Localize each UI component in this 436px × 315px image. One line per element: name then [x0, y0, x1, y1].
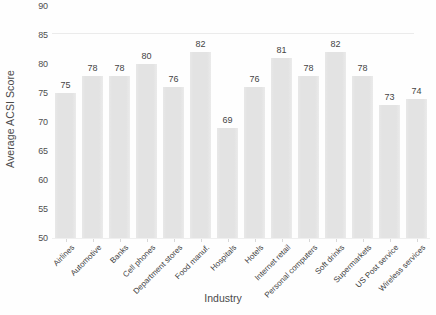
bar-shading [325, 52, 347, 238]
bar [82, 76, 104, 238]
y-axis-tick-label: 80 [22, 59, 48, 69]
x-axis-tick-mark [282, 239, 283, 242]
x-axis-category-label: Airlines [51, 243, 76, 268]
x-axis-tick-mark [201, 239, 202, 242]
bar-value-label: 78 [106, 63, 134, 73]
bar-value-label: 81 [268, 45, 296, 55]
x-axis-category-label: Department stores [131, 243, 184, 296]
x-axis-tick-mark [390, 239, 391, 242]
bar-shading [82, 76, 104, 238]
x-axis-tick-mark [363, 239, 364, 242]
bar-shading [190, 52, 212, 238]
bar-value-label: 74 [403, 86, 431, 96]
x-axis-tick-mark [147, 239, 148, 242]
bar [136, 64, 158, 238]
bar [190, 52, 212, 238]
bar [379, 105, 401, 238]
y-axis-tick-label: 50 [22, 233, 48, 243]
bar [271, 58, 293, 238]
bar-shading [109, 76, 131, 238]
x-axis-tick-mark [120, 239, 121, 242]
x-axis-baseline [52, 238, 430, 239]
bar-shading [352, 76, 374, 238]
y-axis-tick-label: 70 [22, 117, 48, 127]
bar-shading [379, 105, 401, 238]
x-axis-tick-mark [93, 239, 94, 242]
x-axis-title: Industry [0, 292, 436, 304]
x-axis-title-label: Industry [194, 292, 241, 304]
x-axis-tick-mark [66, 239, 67, 242]
y-axis-title: Average ACSI Score [0, 0, 20, 238]
scan-artifact-line [52, 33, 414, 34]
x-axis-tick-mark [228, 239, 229, 242]
x-axis-category-label: Banks [108, 243, 130, 265]
bar [325, 52, 347, 238]
bar-value-label: 78 [349, 63, 377, 73]
bar-shading [55, 93, 77, 238]
bar [109, 76, 131, 238]
bar-value-label: 75 [52, 80, 80, 90]
y-axis-tick-label: 75 [22, 88, 48, 98]
x-axis-category-label: Wireless services [376, 243, 426, 293]
bar-shading [217, 128, 239, 238]
y-axis-tick-label: 85 [22, 30, 48, 40]
bar [298, 76, 320, 238]
bar-value-label: 78 [295, 63, 323, 73]
bar-value-label: 82 [322, 39, 350, 49]
x-axis-tick-mark [255, 239, 256, 242]
y-axis-tick-label: 60 [22, 175, 48, 185]
bar-value-label: 80 [133, 51, 161, 61]
x-axis-category-label: Hospitals [208, 243, 238, 273]
bar-value-label: 76 [241, 74, 269, 84]
y-axis-tick-label: 90 [22, 1, 48, 11]
bar [217, 128, 239, 238]
bar-shading [406, 99, 428, 238]
bar [244, 87, 266, 238]
bar-shading [271, 58, 293, 238]
bar [352, 76, 374, 238]
x-axis-tick-mark [336, 239, 337, 242]
bar-shading [244, 87, 266, 238]
bar-shading [163, 87, 185, 238]
bar-value-label: 76 [160, 74, 188, 84]
x-axis-tick-mark [174, 239, 175, 242]
x-axis-category-label: Hotels [242, 243, 264, 265]
bar-value-label: 69 [214, 115, 242, 125]
y-axis-title-label: Average ACSI Score [4, 70, 16, 168]
bar-shading [136, 64, 158, 238]
bar-shading [298, 76, 320, 238]
x-axis-tick-mark [417, 239, 418, 242]
bar-chart: Average ACSI Score 505560657075808590 75… [0, 0, 436, 315]
y-axis-tick-label: 55 [22, 204, 48, 214]
bar [163, 87, 185, 238]
bar [406, 99, 428, 238]
bar-value-label: 82 [187, 39, 215, 49]
bar [55, 93, 77, 238]
bar-value-label: 78 [79, 63, 107, 73]
bar-value-label: 73 [376, 92, 404, 102]
y-axis-tick-label: 65 [22, 146, 48, 156]
x-axis-tick-mark [309, 239, 310, 242]
